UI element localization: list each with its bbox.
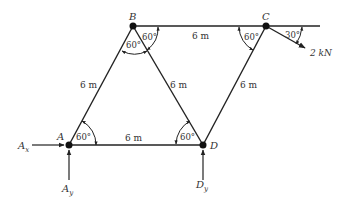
members xyxy=(69,26,320,145)
angle-label-load: 30° xyxy=(285,30,300,40)
reaction-label-ay: Ay xyxy=(61,183,74,197)
angle-label-b-left: 60° xyxy=(126,40,141,50)
angle-arc-b-left xyxy=(122,51,147,54)
load-label: 2 kN xyxy=(309,48,333,58)
node-label-d: D xyxy=(209,140,218,151)
angle-label-c: 60° xyxy=(244,32,259,42)
reaction-label-dy: Dy xyxy=(195,179,209,193)
node-label-c: C xyxy=(262,11,270,22)
node-a xyxy=(66,142,73,149)
member-ab xyxy=(69,26,133,145)
truss-diagram: A B C D 6 m 6 m 6 m 6 m 6 m 60° 60° 60° … xyxy=(0,0,344,208)
node-label-a: A xyxy=(56,131,64,142)
node-c xyxy=(263,23,270,30)
node-d xyxy=(200,142,207,149)
length-label-bc: 6 m xyxy=(192,31,210,41)
angle-label-d: 60° xyxy=(180,132,195,142)
node-b xyxy=(130,23,137,30)
node-label-b: B xyxy=(128,11,136,22)
member-bd xyxy=(133,26,203,145)
length-label-ad: 6 m xyxy=(125,133,143,143)
angle-label-a: 60° xyxy=(76,132,91,142)
length-label-ab: 6 m xyxy=(80,80,98,90)
reaction-label-ax: Ax xyxy=(17,140,29,154)
length-label-cd: 6 m xyxy=(240,80,258,90)
angle-label-b-right: 60° xyxy=(142,32,157,42)
length-label-bd: 6 m xyxy=(170,80,188,90)
